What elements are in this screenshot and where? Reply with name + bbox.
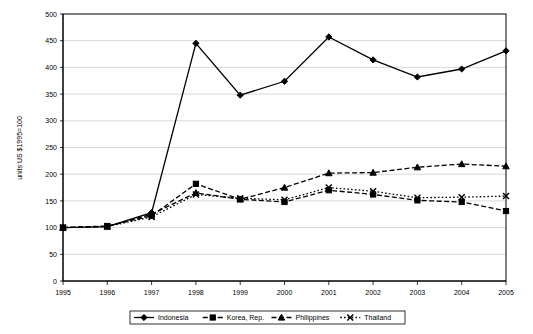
data-point <box>281 184 287 190</box>
chart-container: 050100150200250300350400450500 199519961… <box>0 0 533 334</box>
series-line <box>63 164 506 228</box>
data-point <box>459 66 465 72</box>
data-point <box>414 74 420 80</box>
x-tick-label: 1996 <box>100 289 116 296</box>
x-tick-label: 2000 <box>277 289 293 296</box>
data-point <box>503 48 509 54</box>
y-tick-label: 0 <box>53 278 57 285</box>
x-tick-label: 2001 <box>321 289 337 296</box>
y-tick-label: 450 <box>45 37 57 44</box>
chart-legend: IndonesiaKorea, Rep.PhilippinesThailand <box>130 311 405 324</box>
series-thailand <box>60 185 509 231</box>
x-tick-label: 1999 <box>232 289 248 296</box>
x-tick-label: 1997 <box>144 289 160 296</box>
line-chart: 050100150200250300350400450500 199519961… <box>0 0 533 334</box>
x-axis-ticks: 1995199619971998199920002001200220032004… <box>55 281 514 296</box>
y-tick-label: 150 <box>45 198 57 205</box>
data-point <box>193 181 198 186</box>
legend-label: Thailand <box>364 314 391 321</box>
x-tick-label: 2004 <box>454 289 470 296</box>
x-tick-label: 1995 <box>55 289 71 296</box>
y-tick-label: 200 <box>45 171 57 178</box>
legend-label: Indonesia <box>158 314 188 321</box>
data-point <box>503 208 508 213</box>
x-tick-label: 1998 <box>188 289 204 296</box>
legend-label: Korea, Rep. <box>227 314 264 322</box>
y-tick-label: 400 <box>45 64 57 71</box>
data-point <box>459 199 464 204</box>
series-line <box>63 188 506 228</box>
y-tick-label: 500 <box>45 11 57 18</box>
y-tick-label: 100 <box>45 224 57 231</box>
x-tick-label: 2002 <box>365 289 381 296</box>
legend-label: Philippines <box>296 314 330 322</box>
y-tick-label: 50 <box>49 251 57 258</box>
y-axis-ticks: 050100150200250300350400450500 <box>45 11 63 285</box>
y-axis-title: units:US $1995=100 <box>16 116 23 180</box>
x-tick-label: 2005 <box>498 289 514 296</box>
y-tick-label: 300 <box>45 117 57 124</box>
legend-item-thailand[interactable]: Thailand <box>340 314 391 321</box>
x-tick-label: 2003 <box>410 289 426 296</box>
y-tick-label: 250 <box>45 144 57 151</box>
legend-marker <box>210 315 215 320</box>
data-point <box>370 57 376 63</box>
y-tick-label: 350 <box>45 91 57 98</box>
